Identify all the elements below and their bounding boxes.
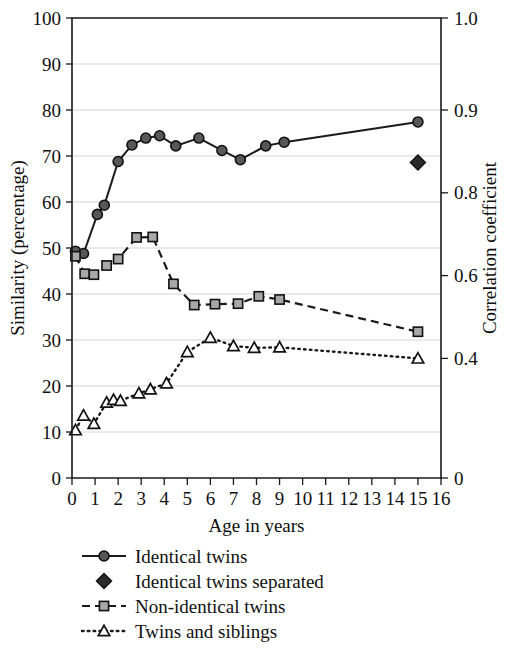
series-2-pt-6-marker-square	[148, 232, 157, 241]
series-2-pt-8-marker-square	[190, 300, 199, 309]
y2-tick-label-0.8: 0.8	[454, 182, 478, 203]
series-0-pt-9-marker-circle	[194, 133, 204, 143]
series-3-pt-1-marker-triangle	[78, 410, 90, 420]
x-tick-label-15: 15	[408, 488, 427, 509]
series-2-pt-2-marker-square	[89, 270, 98, 279]
y2-tick-label-0.6: 0.6	[454, 265, 478, 286]
y-tick-label-40: 40	[42, 284, 61, 305]
y2-tick-label-0.4: 0.4	[454, 348, 478, 369]
x-axis-ticks: 012345678910111213141516	[67, 478, 450, 509]
twin-similarity-line-chart: 0102030405060708090100 00.40.60.80.91.0 …	[0, 0, 507, 655]
legend-item-identical-twins[interactable]: Identical twins	[82, 546, 247, 567]
series-line-3	[75, 338, 417, 430]
series-0-pt-4-marker-circle	[113, 157, 123, 167]
series-0-pt-6-marker-circle	[141, 133, 151, 143]
series-2-pt-13-marker-square	[413, 327, 422, 336]
x-tick-label-14: 14	[385, 488, 405, 509]
series-identical-twins	[70, 117, 422, 259]
y-tick-label-70: 70	[42, 146, 61, 167]
y-tick-label-30: 30	[42, 330, 61, 351]
y-tick-label-80: 80	[42, 100, 61, 121]
series-0-pt-3-marker-circle	[99, 200, 109, 210]
x-tick-label-3: 3	[136, 488, 146, 509]
series-0-pt-12-marker-circle	[261, 141, 271, 151]
x-tick-label-8: 8	[252, 488, 262, 509]
series-2-pt-12-marker-square	[275, 295, 284, 304]
y2-tick-label-0: 0	[454, 468, 464, 489]
y-tick-label-90: 90	[42, 54, 61, 75]
series-0-pt-7-marker-circle	[155, 131, 165, 141]
series-line-0	[75, 122, 417, 254]
x-tick-label-12: 12	[339, 488, 358, 509]
x-tick-label-5: 5	[183, 488, 193, 509]
legend-0-marker-circle	[99, 551, 109, 561]
series-2-pt-11-marker-square	[254, 292, 263, 301]
legend-label-0: Identical twins	[135, 546, 247, 567]
y-tick-label-60: 60	[42, 192, 61, 213]
series-3-pt-9-marker-triangle	[182, 346, 194, 356]
x-tick-label-4: 4	[160, 488, 170, 509]
legend-label-3: Twins and siblings	[135, 621, 277, 642]
y2-tick-label-1.0: 1.0	[454, 8, 478, 29]
series-2-pt-4-marker-square	[114, 254, 123, 263]
series-0-pt-2-marker-circle	[92, 209, 102, 219]
series-2-pt-9-marker-square	[210, 300, 219, 309]
x-tick-label-16: 16	[432, 488, 451, 509]
x-tick-label-0: 0	[67, 488, 77, 509]
chart-figure: 0102030405060708090100 00.40.60.80.91.0 …	[0, 0, 507, 655]
x-tick-label-13: 13	[362, 488, 381, 509]
y-tick-label-50: 50	[42, 238, 61, 259]
series-2-pt-3-marker-square	[102, 261, 111, 270]
y-tick-label-20: 20	[42, 376, 61, 397]
x-tick-label-10: 10	[293, 488, 312, 509]
series-twins-and-siblings	[70, 332, 424, 435]
series-0-pt-5-marker-circle	[127, 140, 137, 150]
series-2-pt-10-marker-square	[233, 299, 242, 308]
series-line-2	[75, 237, 417, 332]
gridlines	[73, 18, 440, 432]
y-tick-label-100: 100	[33, 8, 62, 29]
x-tick-label-6: 6	[206, 488, 216, 509]
y-tick-label-0: 0	[52, 468, 62, 489]
series-2-pt-1-marker-square	[80, 269, 89, 278]
x-tick-label-1: 1	[90, 488, 100, 509]
data-series-group	[70, 117, 426, 435]
legend-label-2: Non-identical twins	[135, 596, 285, 617]
series-0-pt-14-marker-circle	[413, 117, 423, 127]
legend-label-1: Identical twins separated	[135, 571, 324, 592]
y-axis-left-ticks: 0102030405060708090100	[33, 8, 73, 489]
legend-1-marker-diamond	[96, 573, 111, 588]
series-3-pt-8-marker-triangle	[161, 377, 173, 387]
y-axis-right-title: Correlation coefficient	[479, 161, 500, 334]
legend-2-marker-square	[99, 601, 108, 610]
y-tick-label-10: 10	[42, 422, 61, 443]
series-0-pt-8-marker-circle	[171, 141, 181, 151]
x-tick-label-9: 9	[275, 488, 285, 509]
x-tick-label-7: 7	[229, 488, 239, 509]
series-2-pt-5-marker-square	[132, 233, 141, 242]
legend-item-non-identical-twins[interactable]: Non-identical twins	[82, 596, 285, 617]
series-1-pt-0-marker-diamond	[410, 155, 425, 170]
y-axis-right-ticks: 00.40.60.80.91.0	[441, 8, 478, 489]
series-0-pt-10-marker-circle	[217, 145, 227, 155]
x-tick-label-11: 11	[317, 488, 335, 509]
y-axis-left-title: Similarity (percentage)	[7, 160, 29, 336]
legend-item-twins-and-siblings[interactable]: Twins and siblings	[82, 621, 277, 642]
series-0-pt-13-marker-circle	[279, 137, 289, 147]
x-axis-title: Age in years	[208, 515, 304, 536]
y2-tick-label-0.9: 0.9	[454, 100, 478, 121]
series-2-pt-7-marker-square	[169, 279, 178, 288]
series-3-pt-10-marker-triangle	[205, 332, 217, 342]
series-0-pt-11-marker-circle	[235, 155, 245, 165]
chart-legend: Identical twinsIdentical twins separated…	[82, 546, 324, 642]
legend-item-identical-twins-separated[interactable]: Identical twins separated	[96, 571, 324, 592]
series-identical-twins-separated	[410, 155, 425, 170]
x-tick-label-2: 2	[113, 488, 123, 509]
